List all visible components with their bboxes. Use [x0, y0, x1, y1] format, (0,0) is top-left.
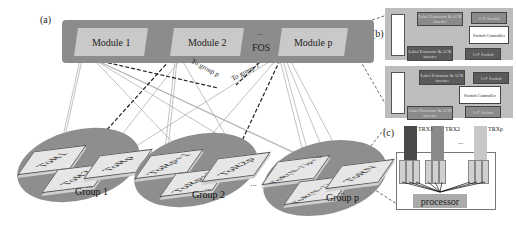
processor-arrows: [0, 0, 516, 227]
processor-block: processor: [413, 194, 467, 208]
